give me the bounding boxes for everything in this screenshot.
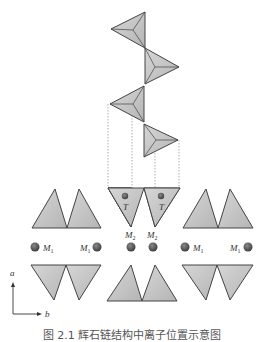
m1-atom-4 xyxy=(244,243,253,252)
center-down-pair xyxy=(108,188,180,227)
tetra-up-right-1 xyxy=(183,189,218,228)
m2-label-left: M2 xyxy=(124,230,136,241)
tetra-up-left-2 xyxy=(67,189,101,228)
tetra-up-center-1 xyxy=(107,265,142,301)
m2-atom-2 xyxy=(149,243,158,252)
axes-indicator xyxy=(11,282,42,316)
tetrahedron-3 xyxy=(110,86,144,122)
m1-atom-1 xyxy=(31,243,40,252)
tetrahedron-4 xyxy=(144,124,178,157)
m1-label-3: M1 xyxy=(192,243,204,254)
m1-atom-2 xyxy=(93,243,102,252)
figure-caption: 图 2.1 辉石链结构中离子位置示意图 xyxy=(0,326,264,342)
m2-label-right: M2 xyxy=(146,230,158,241)
t-site-atom-right xyxy=(158,193,164,199)
m2-atom-1 xyxy=(127,243,136,252)
axis-label-b: b xyxy=(45,309,50,319)
axis-label-a: a xyxy=(10,268,15,278)
tetra-down-left-1 xyxy=(31,265,66,300)
m1-label-1: M1 xyxy=(42,243,54,254)
tetrahedral-chain xyxy=(110,12,179,157)
tetra-up-right-2 xyxy=(218,189,253,228)
m1-atom-3 xyxy=(181,243,190,252)
m1-label-2: M1 xyxy=(79,243,91,254)
lower-layer xyxy=(31,265,253,301)
m1-label-4: M1 xyxy=(229,243,241,254)
tetra-down-right-2 xyxy=(217,265,253,300)
t-site-atom-left xyxy=(122,193,128,199)
tetra-up-left-1 xyxy=(32,189,67,228)
tetrahedron-2 xyxy=(145,48,179,84)
tetra-down-right-1 xyxy=(182,265,217,300)
tetra-up-center-2 xyxy=(142,265,177,301)
tetrahedron-1 xyxy=(111,12,145,48)
m-site-atoms xyxy=(31,243,253,252)
tetra-down-left-2 xyxy=(66,265,101,300)
